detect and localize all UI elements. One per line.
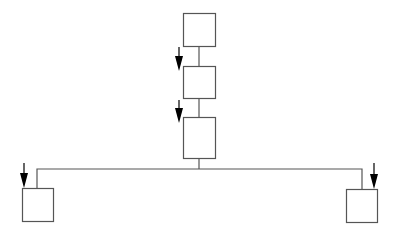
diagram-canvas — [0, 0, 397, 235]
node-box-3 — [184, 118, 216, 159]
node-box-1 — [184, 14, 216, 47]
node-box-2 — [184, 67, 216, 99]
connector-bus — [37, 169, 362, 189]
tree-diagram — [0, 0, 397, 235]
arrow-to-box-2-icon — [175, 47, 183, 71]
arrow-to-box-left-icon — [20, 163, 28, 188]
node-box-left — [23, 189, 54, 222]
arrow-to-box-right-icon — [370, 163, 378, 189]
node-box-right — [347, 190, 378, 223]
arrow-to-box-3-icon — [175, 100, 183, 123]
